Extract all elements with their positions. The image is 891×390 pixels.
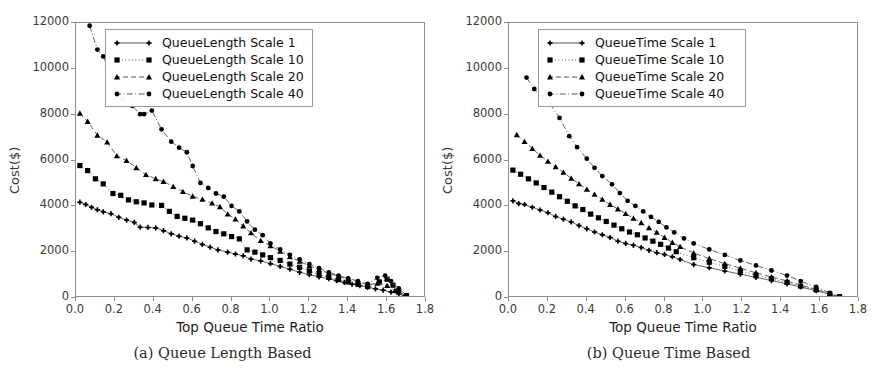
x-tick-label: 1.2	[288, 302, 328, 316]
x-tick-mark	[702, 297, 703, 301]
x-tick-label: 1.8	[838, 302, 878, 316]
x-axis-label: Top Queue Time Ratio	[75, 319, 425, 335]
x-tick-label: 0.8	[211, 302, 251, 316]
x-tick-mark	[508, 297, 509, 301]
x-tick-label: 1.4	[760, 302, 800, 316]
y-tick-mark	[71, 160, 75, 161]
legend-item[interactable]: QueueLength Scale 1	[111, 34, 306, 51]
y-tick-label: 0	[13, 289, 69, 303]
y-tick-mark	[504, 251, 508, 252]
x-tick-label: 1.2	[721, 302, 761, 316]
legend-b: QueueTime Scale 1QueueTime Scale 10Queue…	[538, 29, 746, 107]
x-tick-label: 0.2	[94, 302, 134, 316]
legend-marker-2-icon	[544, 69, 588, 85]
x-tick-mark	[741, 297, 742, 301]
y-tick-mark	[71, 22, 75, 23]
x-tick-label: 1.0	[249, 302, 289, 316]
legend-item[interactable]: QueueLength Scale 20	[111, 68, 306, 85]
y-tick-mark	[504, 22, 508, 23]
y-tick-label: 0	[446, 289, 502, 303]
x-tick-label: 1.6	[799, 302, 839, 316]
x-tick-label: 1.6	[366, 302, 406, 316]
x-tick-mark	[425, 297, 426, 301]
y-tick-mark	[71, 114, 75, 115]
y-axis-label: Cost($)	[440, 146, 455, 193]
x-tick-label: 0.8	[644, 302, 684, 316]
x-tick-mark	[269, 297, 270, 301]
legend-label: QueueLength Scale 40	[162, 86, 304, 102]
x-tick-mark	[75, 297, 76, 301]
series-2	[77, 110, 410, 297]
series-1	[77, 163, 409, 297]
x-tick-mark	[231, 297, 232, 301]
x-tick-mark	[386, 297, 387, 301]
legend-marker-3-icon	[111, 86, 155, 102]
y-tick-mark	[504, 205, 508, 206]
x-tick-label: 1.8	[405, 302, 445, 316]
y-tick-label: 10000	[13, 60, 69, 74]
legend-label: QueueTime Scale 40	[595, 86, 724, 102]
y-tick-label: 2000	[446, 243, 502, 257]
legend-marker-0-icon	[544, 35, 588, 51]
y-tick-mark	[71, 68, 75, 69]
legend-item[interactable]: QueueLength Scale 10	[111, 51, 306, 68]
y-tick-mark	[504, 160, 508, 161]
x-tick-label: 1.0	[682, 302, 722, 316]
x-axis-label: Top Queue Time Ratio	[508, 319, 858, 335]
y-tick-label: 4000	[446, 197, 502, 211]
x-tick-mark	[586, 297, 587, 301]
x-tick-mark	[192, 297, 193, 301]
y-tick-label: 2000	[13, 243, 69, 257]
x-tick-mark	[625, 297, 626, 301]
x-tick-label: 0.6	[605, 302, 645, 316]
legend-item[interactable]: QueueTime Scale 20	[544, 68, 739, 85]
legend-label: QueueLength Scale 20	[162, 69, 304, 85]
figure-container: 0200040006000800010000120000.00.20.40.60…	[0, 0, 891, 390]
legend-label: QueueLength Scale 1	[162, 35, 296, 51]
chart-panel-a: 0200040006000800010000120000.00.20.40.60…	[0, 0, 445, 390]
y-tick-mark	[504, 68, 508, 69]
y-tick-label: 12000	[13, 14, 69, 28]
x-tick-label: 1.4	[327, 302, 367, 316]
chart-panel-b: 0200040006000800010000120000.00.20.40.60…	[446, 0, 891, 390]
legend-marker-1-icon	[544, 52, 588, 68]
y-tick-label: 8000	[13, 106, 69, 120]
y-tick-label: 4000	[13, 197, 69, 211]
legend-a: QueueLength Scale 1QueueLength Scale 10Q…	[105, 29, 313, 107]
legend-marker-1-icon	[111, 52, 155, 68]
y-tick-label: 10000	[446, 60, 502, 74]
legend-item[interactable]: QueueTime Scale 10	[544, 51, 739, 68]
panel-caption-a: (a) Queue Length Based	[0, 345, 445, 361]
x-tick-mark	[819, 297, 820, 301]
x-tick-label: 0.0	[55, 302, 95, 316]
y-tick-mark	[71, 205, 75, 206]
legend-item[interactable]: QueueTime Scale 1	[544, 34, 739, 51]
legend-label: QueueTime Scale 1	[595, 35, 716, 51]
x-tick-mark	[114, 297, 115, 301]
y-tick-mark	[71, 251, 75, 252]
x-tick-mark	[780, 297, 781, 301]
y-axis-label: Cost($)	[7, 146, 22, 193]
x-tick-label: 0.6	[172, 302, 212, 316]
x-tick-mark	[347, 297, 348, 301]
y-tick-label: 12000	[446, 14, 502, 28]
x-tick-mark	[664, 297, 665, 301]
legend-label: QueueTime Scale 10	[595, 52, 724, 68]
legend-label: QueueLength Scale 10	[162, 52, 304, 68]
y-tick-label: 8000	[446, 106, 502, 120]
x-tick-label: 0.4	[566, 302, 606, 316]
panel-caption-b: (b) Queue Time Based	[446, 345, 891, 361]
legend-marker-3-icon	[544, 86, 588, 102]
y-tick-mark	[504, 114, 508, 115]
x-tick-label: 0.2	[527, 302, 567, 316]
x-tick-mark	[153, 297, 154, 301]
legend-label: QueueTime Scale 20	[595, 69, 724, 85]
legend-item[interactable]: QueueTime Scale 40	[544, 85, 739, 102]
series-2	[514, 132, 843, 297]
legend-marker-0-icon	[111, 35, 155, 51]
x-tick-label: 0.0	[488, 302, 528, 316]
legend-marker-2-icon	[111, 69, 155, 85]
x-tick-label: 0.4	[133, 302, 173, 316]
legend-item[interactable]: QueueLength Scale 40	[111, 85, 306, 102]
series-3	[524, 75, 842, 297]
